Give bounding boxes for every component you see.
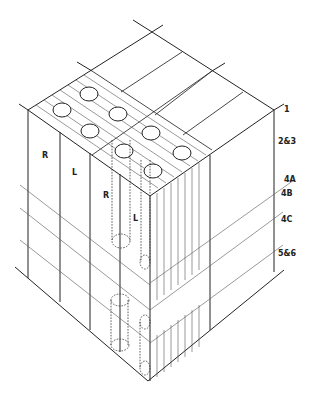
layer-labels: 1 2&3 4A 4B 4C 5&6 <box>278 105 297 258</box>
layer-label-4c: 4C <box>281 215 293 224</box>
face-label-inner-l: L <box>133 214 138 223</box>
layer-label-2-3: 2&3 <box>278 137 296 146</box>
layer-label-5-6: 5&6 <box>278 249 297 258</box>
face-label-outer-l: L <box>72 168 77 177</box>
right-face <box>148 110 294 381</box>
isometric-block-diagram: 1 2&3 4A 4B 4C 5&6 R L R L <box>0 0 310 401</box>
dashed-cylinders <box>111 140 150 375</box>
face-label-inner-r: R <box>103 191 109 200</box>
face-label-outer-r: R <box>42 151 48 160</box>
layer-label-1: 1 <box>284 105 290 114</box>
layer-label-4a: 4A <box>284 175 297 184</box>
layer-label-4b: 4B <box>281 189 293 198</box>
